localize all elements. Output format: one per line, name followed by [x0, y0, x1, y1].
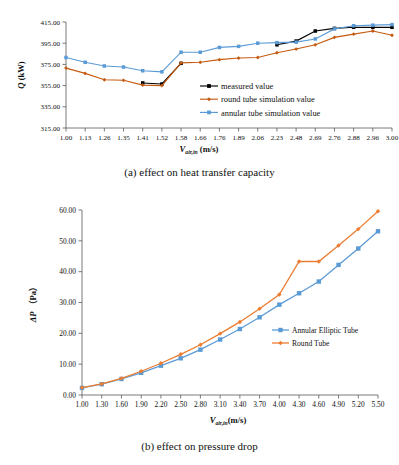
x-tick-label-b: 1.30 [95, 400, 108, 409]
data-point-a-1-11 [275, 51, 279, 55]
x-tick-label-a: 2.69 [309, 134, 322, 142]
legend-label-b-1: Round Tube [292, 339, 330, 348]
x-tick-label-b: 4.60 [312, 400, 325, 409]
data-point-a-1-2 [102, 78, 106, 82]
y-tick-label-b: 50.00 [59, 237, 76, 246]
x-tick-label-a: 1.89 [232, 134, 245, 142]
x-tick-label-b: 2.80 [194, 400, 207, 409]
x-tick-label-b: 1.90 [135, 400, 148, 409]
x-tick-label-a: 3.00 [386, 134, 399, 142]
x-tick-label-a: 2.76 [328, 134, 341, 142]
data-point-b-0-13 [336, 263, 340, 267]
x-tick-label-b: 3.10 [214, 400, 227, 409]
legend-item-b-0[interactable]: Annular Elliptic Tube [272, 326, 359, 335]
data-point-a-1-13 [313, 43, 317, 47]
y-tick-label-b: 30.00 [59, 298, 76, 307]
data-point-b-0-9 [257, 315, 261, 319]
figure-container: 315.00335.00355.00375.00395.00415.001.00… [0, 0, 399, 465]
x-tick-label-a: 2.96 [367, 134, 380, 142]
pressure-drop-chart: 0.0010.0020.0030.0040.0050.0060.001.001.… [0, 190, 399, 440]
legend-item-a-1[interactable]: round tube simulation value [200, 95, 315, 104]
x-tick-label-b: 2.50 [174, 400, 187, 409]
data-point-a-2-4 [141, 69, 145, 73]
x-tick-label-b: 5.20 [352, 400, 365, 409]
data-point-a-1-15 [352, 32, 356, 36]
legend-marker-a-1 [207, 97, 211, 101]
legend-item-b-1[interactable]: Round Tube [272, 339, 330, 348]
data-point-a-1-0 [64, 66, 68, 70]
x-tick-label-b: 4.90 [332, 400, 345, 409]
x-tick-label-b: 3.40 [233, 400, 246, 409]
y-tick-label-b: 20.00 [59, 329, 76, 338]
legend-marker-b-1 [278, 341, 282, 345]
svg-text:Vair,in(m/s): Vair,in(m/s) [210, 415, 247, 426]
svg-text:Vair,in (m/s): Vair,in (m/s) [180, 144, 219, 155]
data-point-a-2-9 [237, 45, 241, 49]
legend-label-b-0: Annular Elliptic Tube [292, 326, 359, 335]
data-point-b-0-11 [297, 291, 301, 295]
data-point-b-0-15 [376, 229, 380, 233]
data-point-a-2-0 [64, 56, 68, 60]
legend-marker-a-0 [207, 84, 211, 88]
x-tick-label-a: 2.23 [271, 134, 284, 142]
x-tick-label-b: 3.70 [253, 400, 266, 409]
data-point-a-1-8 [218, 58, 222, 62]
svg-text:ΔP （Pa）: ΔP （Pa） [28, 282, 38, 323]
data-point-a-2-7 [198, 50, 202, 54]
legend-item-a-2[interactable]: annular tube simulation value [200, 109, 321, 118]
y-axis-title-a: Q (kW) [16, 61, 26, 89]
y-axis-title-b: ΔP （Pa） [28, 282, 38, 323]
data-point-a-2-11 [275, 41, 279, 45]
data-point-a-1-10 [256, 56, 260, 60]
x-tick-label-a: 2.48 [290, 134, 303, 142]
x-tick-label-b: 4.30 [293, 400, 306, 409]
series-line-a-2 [66, 25, 392, 72]
heat-transfer-chart: 315.00335.00355.00375.00395.00415.001.00… [0, 0, 399, 168]
y-tick-label-b: 0.00 [63, 391, 76, 400]
svg-text:Q (kW): Q (kW) [16, 61, 26, 89]
data-point-a-2-8 [218, 46, 222, 50]
data-point-a-1-14 [333, 35, 337, 39]
x-tick-label-b: 5.50 [372, 400, 385, 409]
x-tick-label-b: 2.20 [154, 400, 167, 409]
data-point-a-1-3 [122, 78, 126, 82]
y-tick-label-a: 335.00 [40, 103, 60, 111]
data-point-b-0-14 [356, 246, 360, 250]
x-tick-label-b: 4.00 [273, 400, 286, 409]
y-tick-label-b: 60.00 [59, 206, 76, 215]
legend-marker-b-0 [278, 328, 282, 332]
x-axis-title-b: Vair,in(m/s) [210, 415, 247, 426]
legend-marker-a-2 [207, 111, 211, 115]
x-tick-label-b: 1.60 [115, 400, 128, 409]
legend-label-a-2: annular tube simulation value [221, 109, 321, 118]
legend-label-a-0: measured value [221, 82, 274, 91]
caption-b: (b) effect on pressure drop [0, 440, 399, 452]
x-tick-label-a: 1.00 [60, 134, 73, 142]
x-tick-label-a: 1.52 [156, 134, 169, 142]
y-tick-label-a: 315.00 [40, 125, 60, 133]
y-tick-label-a: 355.00 [40, 82, 60, 90]
y-tick-label-a: 415.00 [40, 19, 60, 27]
data-point-a-1-1 [83, 72, 87, 76]
caption-a: (a) effect on heat transfer capacity [0, 166, 399, 178]
x-tick-label-a: 1.41 [136, 134, 149, 142]
x-tick-label-a: 1.66 [194, 134, 207, 142]
data-point-a-2-3 [122, 65, 126, 69]
chart-panel-b: 0.0010.0020.0030.0040.0050.0060.001.001.… [0, 190, 399, 465]
data-point-a-1-9 [237, 56, 241, 60]
data-point-a-2-17 [390, 23, 394, 27]
data-point-a-2-1 [83, 61, 87, 65]
data-point-a-2-13 [314, 37, 318, 41]
legend-item-a-0[interactable]: measured value [200, 82, 274, 91]
x-axis-title-a: Vair,in (m/s) [180, 144, 219, 155]
data-point-a-2-2 [103, 64, 107, 68]
data-point-a-1-16 [371, 29, 375, 33]
data-point-b-0-10 [277, 302, 281, 306]
data-point-b-0-12 [317, 279, 321, 283]
y-tick-label-a: 375.00 [40, 61, 60, 69]
data-point-a-1-12 [294, 47, 298, 51]
y-tick-label-a: 395.00 [40, 40, 60, 48]
x-tick-label-a: 1.13 [79, 134, 92, 142]
chart-panel-a: 315.00335.00355.00375.00395.00415.001.00… [0, 0, 399, 190]
x-tick-label-a: 1.58 [175, 134, 188, 142]
